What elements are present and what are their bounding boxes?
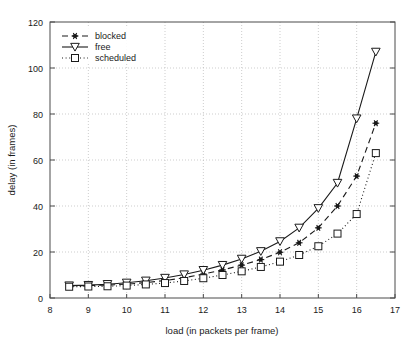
square-icon bbox=[334, 230, 341, 237]
legend-label-blocked: blocked bbox=[95, 31, 126, 41]
x-tick-label: 13 bbox=[237, 305, 247, 315]
x-tick-label: 12 bbox=[198, 305, 208, 315]
legend: blockedfreescheduled bbox=[57, 27, 154, 63]
square-icon bbox=[181, 277, 188, 284]
legend-item-scheduled[interactable]: scheduled bbox=[62, 53, 136, 63]
delay-vs-load-line-chart: 891011121314151617 020406080100120 load … bbox=[0, 0, 415, 346]
x-tick-label: 17 bbox=[390, 305, 400, 315]
data-point-marker-square-open bbox=[277, 258, 284, 265]
square-icon bbox=[142, 281, 149, 288]
y-tick-label: 20 bbox=[33, 248, 43, 258]
data-point-marker-square-open bbox=[85, 283, 92, 290]
y-tick-label: 120 bbox=[28, 18, 43, 28]
square-icon bbox=[219, 272, 226, 279]
square-icon bbox=[85, 283, 92, 290]
y-tick-label: 0 bbox=[38, 294, 43, 304]
square-icon bbox=[277, 258, 284, 265]
square-icon bbox=[162, 280, 169, 287]
square-icon bbox=[72, 55, 79, 62]
x-tick-label: 10 bbox=[122, 305, 132, 315]
square-icon bbox=[123, 282, 130, 289]
data-point-marker-square-open bbox=[66, 283, 73, 290]
square-icon bbox=[315, 243, 322, 250]
data-point-marker-square-open bbox=[372, 150, 379, 157]
data-point-marker-square-open bbox=[123, 282, 130, 289]
data-point-marker-square-open bbox=[296, 251, 303, 258]
square-icon bbox=[353, 211, 360, 218]
data-point-marker-square-open bbox=[219, 272, 226, 279]
square-icon bbox=[372, 150, 379, 157]
data-point-marker-square-open bbox=[142, 281, 149, 288]
x-tick-label: 15 bbox=[313, 305, 323, 315]
y-tick-label: 100 bbox=[28, 64, 43, 74]
legend-label-free: free bbox=[95, 42, 111, 52]
x-tick-label: 16 bbox=[352, 305, 362, 315]
x-tick-label: 11 bbox=[160, 305, 169, 315]
x-axis-title: load (in packets per frame) bbox=[166, 325, 279, 336]
data-point-marker-square-open bbox=[257, 263, 264, 270]
y-tick-label: 80 bbox=[33, 110, 43, 120]
data-point-marker-square-open bbox=[315, 243, 322, 250]
square-icon bbox=[238, 268, 245, 275]
y-tick-label: 60 bbox=[33, 156, 43, 166]
data-point-marker-square-open bbox=[181, 277, 188, 284]
x-tick-label: 9 bbox=[86, 305, 91, 315]
data-point-marker-square-open bbox=[72, 55, 79, 62]
square-icon bbox=[104, 283, 111, 290]
data-point-marker-square-open bbox=[334, 230, 341, 237]
y-axis-title: delay (in frames) bbox=[6, 125, 17, 196]
legend-label-scheduled: scheduled bbox=[95, 53, 136, 63]
data-point-marker-square-open bbox=[238, 268, 245, 275]
data-point-marker-square-open bbox=[104, 283, 111, 290]
square-icon bbox=[66, 283, 73, 290]
x-tick-label: 8 bbox=[47, 305, 52, 315]
data-point-marker-square-open bbox=[353, 211, 360, 218]
y-tick-label: 40 bbox=[33, 202, 43, 212]
data-point-marker-square-open bbox=[200, 275, 207, 282]
chart-figure: 891011121314151617 020406080100120 load … bbox=[0, 0, 415, 346]
x-tick-label: 14 bbox=[275, 305, 285, 315]
square-icon bbox=[257, 263, 264, 270]
square-icon bbox=[200, 275, 207, 282]
data-point-marker-square-open bbox=[162, 280, 169, 287]
square-icon bbox=[296, 251, 303, 258]
